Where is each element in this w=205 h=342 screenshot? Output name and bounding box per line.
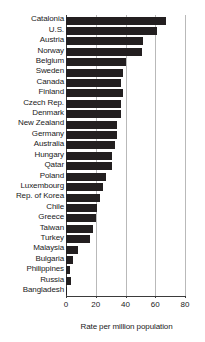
category-label: Poland	[0, 171, 64, 182]
tick-label-60: 60	[145, 300, 165, 310]
bar	[66, 27, 157, 35]
x-axis-title: Rate per million population	[0, 322, 205, 331]
tick-label-20: 20	[86, 300, 106, 310]
bar	[66, 287, 67, 295]
category-label: Qatar	[0, 160, 64, 171]
bar	[66, 246, 78, 254]
plot-area	[66, 15, 185, 296]
bar	[66, 173, 106, 181]
category-label: Luxembourg	[0, 181, 64, 192]
bar	[66, 152, 112, 160]
tick-mark-60	[155, 296, 156, 298]
category-label: Norway	[0, 46, 64, 57]
category-label: Hungary	[0, 150, 64, 161]
category-label: Denmark	[0, 108, 64, 119]
bar	[66, 37, 143, 45]
bar	[66, 266, 70, 274]
bar	[66, 110, 121, 118]
category-label: Taiwan	[0, 223, 64, 234]
bar	[66, 79, 121, 87]
category-label: Belgium	[0, 56, 64, 67]
category-label: Rep. of Korea	[0, 191, 64, 202]
bar	[66, 204, 97, 212]
category-label: Canada	[0, 77, 64, 88]
tick-mark-0	[66, 296, 67, 298]
category-label: Catalonia	[0, 14, 64, 25]
category-label: Australia	[0, 139, 64, 150]
category-label: Austria	[0, 35, 64, 46]
tick-mark-80	[185, 296, 186, 298]
category-label: U.S.	[0, 25, 64, 36]
category-labels: CataloniaU.S.AustriaNorwayBelgiumSwedenC…	[0, 15, 64, 296]
category-label: Czech Rep.	[0, 98, 64, 109]
category-label: Russia	[0, 275, 64, 286]
bar	[66, 214, 96, 222]
bar	[66, 183, 103, 191]
bar	[66, 194, 100, 202]
bar-chart: CataloniaU.S.AustriaNorwayBelgiumSwedenC…	[0, 0, 205, 342]
category-label: Greece	[0, 212, 64, 223]
category-label: Philippines	[0, 264, 64, 275]
bar	[66, 69, 123, 77]
category-label: Finland	[0, 87, 64, 98]
category-label: Bulgaria	[0, 254, 64, 265]
tick-label-80: 80	[175, 300, 195, 310]
bar	[66, 141, 115, 149]
category-label: Bangladesh	[0, 285, 64, 296]
category-label: Malaysia	[0, 243, 64, 254]
bar	[66, 256, 73, 264]
bar	[66, 17, 166, 25]
bar	[66, 89, 123, 97]
bar	[66, 235, 90, 243]
category-label: Germany	[0, 129, 64, 140]
bar	[66, 48, 142, 56]
bar	[66, 162, 112, 170]
bar	[66, 277, 71, 285]
category-label: Turkey	[0, 233, 64, 244]
bar	[66, 58, 126, 66]
bar	[66, 131, 117, 139]
tick-mark-20	[96, 296, 97, 298]
bar	[66, 100, 121, 108]
category-label: Chile	[0, 202, 64, 213]
category-label: New Zealand	[0, 118, 64, 129]
tick-mark-40	[126, 296, 127, 298]
tick-label-0: 0	[56, 300, 76, 310]
bar	[66, 121, 117, 129]
gridline-80	[185, 15, 186, 296]
bar	[66, 225, 93, 233]
category-label: Sweden	[0, 66, 64, 77]
tick-label-40: 40	[116, 300, 136, 310]
